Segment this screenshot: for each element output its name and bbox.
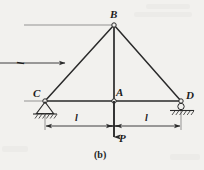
dimension-label-height: l xyxy=(16,58,26,68)
roller-support-D xyxy=(170,103,194,115)
figure-container: B C A D P l l l (b) xyxy=(0,0,204,170)
member-BD xyxy=(114,25,181,101)
load-label-P: P xyxy=(119,133,126,144)
node-label-A: A xyxy=(116,87,123,98)
dimension-label-left-span: l xyxy=(75,113,78,123)
node-label-C: C xyxy=(33,88,40,99)
joint-D xyxy=(179,99,183,103)
node-label-D: D xyxy=(186,90,194,101)
joint-B xyxy=(112,23,116,27)
figure-caption: (b) xyxy=(94,150,106,160)
ground-hatching-D xyxy=(172,111,194,115)
truss-members xyxy=(45,25,181,101)
truss-diagram xyxy=(0,0,204,170)
dimension-label-right-span: l xyxy=(145,113,148,123)
ground-hatching-C xyxy=(35,114,57,118)
dimension-spans xyxy=(45,111,181,130)
roller-wheel-D xyxy=(178,103,184,109)
node-label-B: B xyxy=(110,9,117,20)
